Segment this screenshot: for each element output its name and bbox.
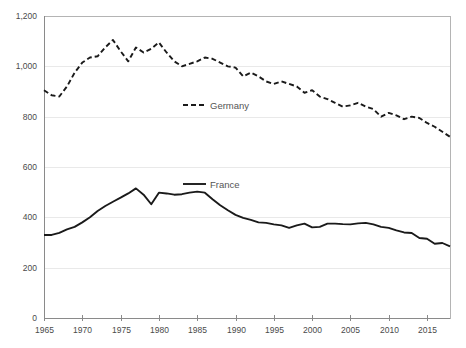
x-tick-label-1995: 1995 xyxy=(265,325,284,335)
x-tick-label-2000: 2000 xyxy=(303,325,322,335)
y-tick-label-1200: 1,200 xyxy=(16,11,38,21)
x-tick-label-2010: 2010 xyxy=(380,325,399,335)
line-chart: 02004006008001,0001,200 1965197019751980… xyxy=(0,0,466,348)
y-tick-label-400: 400 xyxy=(23,212,37,222)
x-tick-label-1965: 1965 xyxy=(35,325,54,335)
y-tick-label-800: 800 xyxy=(23,112,37,122)
x-tick-label-1980: 1980 xyxy=(150,325,169,335)
chart-canvas: 02004006008001,0001,200 1965197019751980… xyxy=(0,0,466,348)
x-tick-label-1985: 1985 xyxy=(188,325,207,335)
y-tick-label-200: 200 xyxy=(23,263,37,273)
legend-label-germany: Germany xyxy=(210,100,249,111)
legend-label-france: France xyxy=(210,179,240,190)
x-tick-label-2005: 2005 xyxy=(341,325,360,335)
y-tick-label-600: 600 xyxy=(23,162,37,172)
x-tick-label-1990: 1990 xyxy=(227,325,246,335)
y-tick-label-1000: 1,000 xyxy=(16,61,38,71)
chart-background xyxy=(0,0,466,348)
x-tick-label-1970: 1970 xyxy=(73,325,92,335)
y-tick-label-0: 0 xyxy=(32,313,37,323)
x-tick-label-2015: 2015 xyxy=(418,325,437,335)
x-tick-label-1975: 1975 xyxy=(112,325,131,335)
